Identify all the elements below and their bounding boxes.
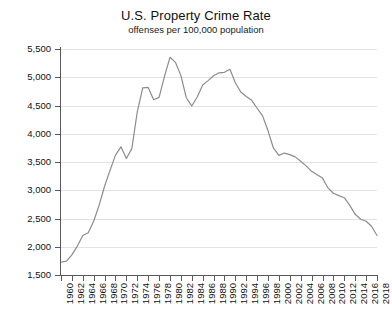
x-tick-label: 2002 — [294, 283, 304, 304]
plot-area — [61, 49, 377, 275]
x-tick-label: 1960 — [65, 283, 75, 304]
x-tick-label: 2000 — [283, 283, 293, 304]
y-tick-mark — [55, 49, 61, 50]
y-tick-label: 1,500 — [27, 270, 51, 280]
y-tick-label: 2,000 — [27, 242, 51, 252]
x-tick-label: 1998 — [272, 283, 282, 304]
x-tick-mark — [312, 276, 313, 281]
x-tick-label: 2010 — [337, 283, 347, 304]
y-tick-mark — [55, 134, 61, 135]
x-tick-label: 1992 — [239, 283, 249, 304]
x-tick-mark — [126, 276, 127, 281]
x-tick-mark — [203, 276, 204, 281]
x-tick-mark — [344, 276, 345, 281]
x-tick-label: 1980 — [174, 283, 184, 304]
x-tick-label: 2018 — [381, 283, 391, 304]
y-tick-label: 4,000 — [27, 129, 51, 139]
x-tick-mark — [257, 276, 258, 281]
x-tick-mark — [214, 276, 215, 281]
property-crime-rate-line — [61, 57, 377, 262]
x-tick-label: 1990 — [228, 283, 238, 304]
y-tick-mark — [55, 219, 61, 220]
chart-subtitle: offenses per 100,000 population — [0, 24, 392, 35]
x-tick-mark — [83, 276, 84, 281]
x-tick-label: 1984 — [196, 283, 206, 304]
x-tick-label: 1962 — [76, 283, 86, 304]
y-tick-mark — [55, 162, 61, 163]
x-tick-mark — [72, 276, 73, 281]
x-tick-label: 2008 — [327, 283, 337, 304]
x-tick-mark — [333, 276, 334, 281]
x-tick-label: 1978 — [163, 283, 173, 304]
x-tick-mark — [148, 276, 149, 281]
x-tick-label: 1988 — [218, 283, 228, 304]
x-tick-mark — [105, 276, 106, 281]
y-tick-mark — [55, 247, 61, 248]
y-tick-label: 5,000 — [27, 72, 51, 82]
y-tick-label: 3,000 — [27, 185, 51, 195]
x-tick-mark — [301, 276, 302, 281]
x-tick-mark — [94, 276, 95, 281]
x-tick-mark — [224, 276, 225, 281]
x-tick-label: 2012 — [348, 283, 358, 304]
x-tick-mark — [115, 276, 116, 281]
x-tick-mark — [268, 276, 269, 281]
x-tick-label: 1972 — [130, 283, 140, 304]
x-tick-mark — [159, 276, 160, 281]
y-tick-label: 3,500 — [27, 157, 51, 167]
x-tick-label: 1974 — [141, 283, 151, 304]
x-tick-mark — [323, 276, 324, 281]
x-axis-line — [60, 275, 378, 276]
x-tick-label: 1996 — [261, 283, 271, 304]
x-tick-label: 2006 — [316, 283, 326, 304]
x-tick-mark — [192, 276, 193, 281]
y-tick-mark — [55, 190, 61, 191]
x-tick-mark — [246, 276, 247, 281]
x-tick-mark — [377, 276, 378, 281]
x-tick-label: 1970 — [119, 283, 129, 304]
x-tick-label: 1968 — [109, 283, 119, 304]
x-tick-label: 1982 — [185, 283, 195, 304]
x-tick-label: 2014 — [359, 283, 369, 304]
x-tick-mark — [235, 276, 236, 281]
x-tick-label: 2016 — [370, 283, 380, 304]
chart-title: U.S. Property Crime Rate — [0, 8, 392, 23]
x-tick-mark — [181, 276, 182, 281]
x-tick-label: 1976 — [152, 283, 162, 304]
x-tick-mark — [137, 276, 138, 281]
x-tick-label: 2004 — [305, 283, 315, 304]
x-tick-mark — [170, 276, 171, 281]
y-tick-label: 5,500 — [27, 44, 51, 54]
x-tick-label: 1966 — [98, 283, 108, 304]
x-tick-mark — [61, 276, 62, 281]
property-crime-rate-chart: U.S. Property Crime Rate offenses per 10… — [0, 0, 392, 324]
x-tick-label: 1994 — [250, 283, 260, 304]
x-tick-mark — [366, 276, 367, 281]
y-tick-label: 2,500 — [27, 214, 51, 224]
x-tick-label: 1964 — [87, 283, 97, 304]
x-tick-mark — [290, 276, 291, 281]
series-layer — [61, 49, 377, 275]
x-tick-mark — [355, 276, 356, 281]
y-tick-label: 4,500 — [27, 101, 51, 111]
x-tick-mark — [279, 276, 280, 281]
x-tick-label: 1986 — [207, 283, 217, 304]
y-tick-mark — [55, 106, 61, 107]
y-tick-mark — [55, 77, 61, 78]
